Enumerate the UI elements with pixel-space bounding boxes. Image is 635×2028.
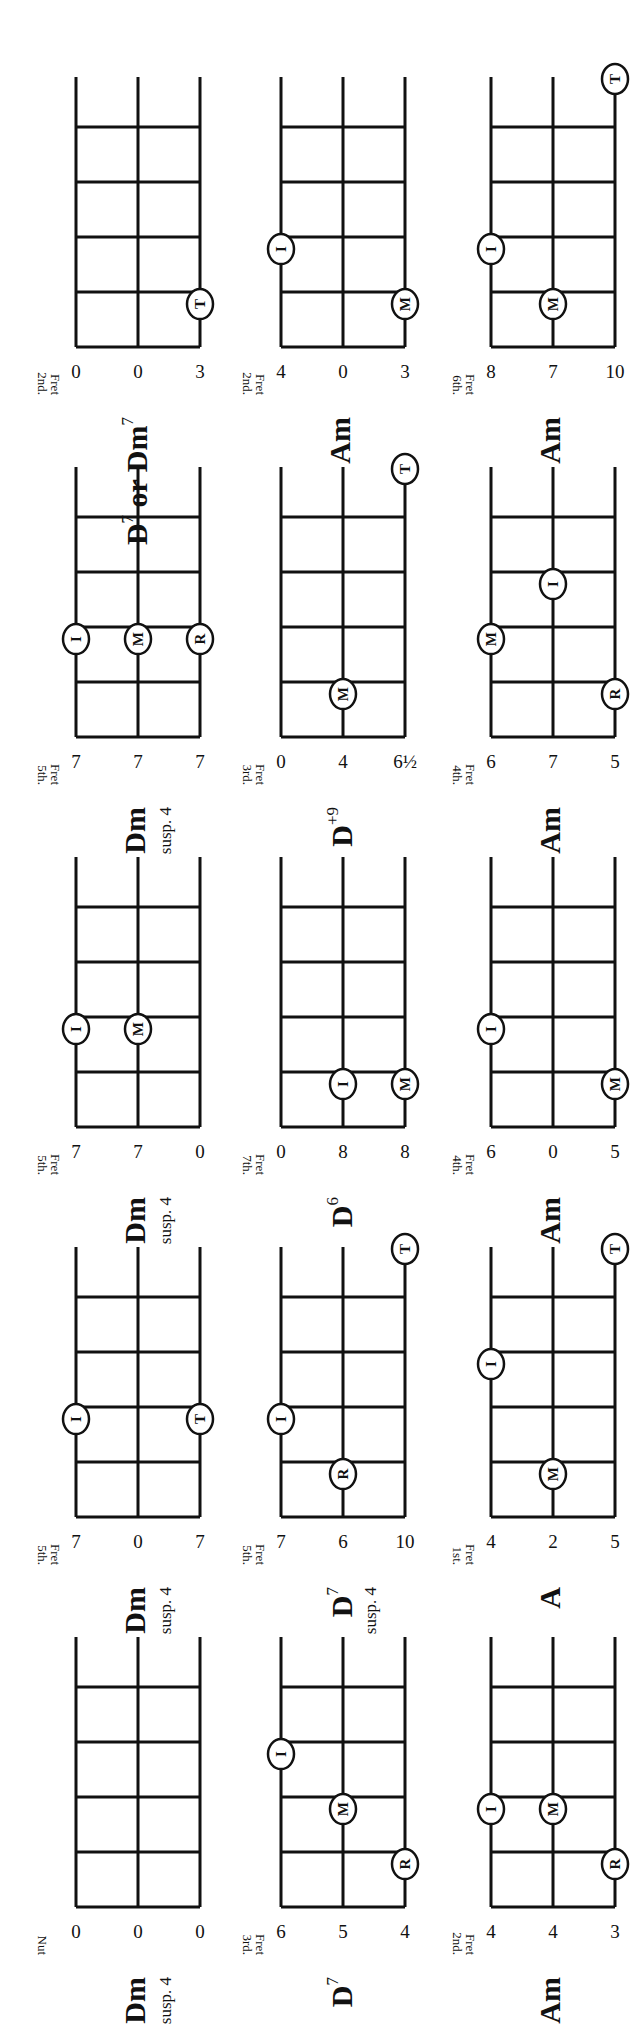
string-fret-number: 2 bbox=[538, 1531, 568, 1553]
chord-qualifier: susp. 4 bbox=[156, 807, 176, 927]
fret-position-label: Fret2nd. bbox=[451, 1911, 477, 1955]
chord-name: Am bbox=[533, 1197, 567, 1337]
svg-text:T: T bbox=[192, 1414, 208, 1424]
string-fret-number: 0 bbox=[266, 751, 296, 773]
finger-marker-m: M bbox=[540, 1794, 566, 1824]
chord-alt-extension: 7 bbox=[118, 417, 137, 426]
chord-root: A bbox=[533, 1587, 566, 1609]
string-fret-number: 0 bbox=[61, 1921, 91, 1943]
fret-ordinal: 2nd. bbox=[36, 351, 49, 395]
svg-text:M: M bbox=[607, 1077, 623, 1091]
chord-diagram: TFret2nd.003D7 or Dm7 bbox=[40, 0, 245, 387]
finger-marker-i: I bbox=[268, 1739, 294, 1769]
chord-root: Dm bbox=[118, 807, 151, 854]
fret-ordinal: 3rd. bbox=[241, 1911, 254, 1955]
chord-root: Am bbox=[533, 1977, 566, 2024]
string-fret-number: 7 bbox=[61, 751, 91, 773]
finger-marker-r: R bbox=[392, 1849, 418, 1879]
svg-text:I: I bbox=[483, 1026, 499, 1032]
string-fret-number: 3 bbox=[390, 361, 420, 383]
svg-text:I: I bbox=[273, 246, 289, 252]
svg-text:M: M bbox=[397, 1077, 413, 1091]
string-fret-number: 4 bbox=[476, 1531, 506, 1553]
fret-position-label: Nut bbox=[36, 1911, 49, 1955]
finger-marker-t: T bbox=[187, 289, 213, 319]
fret-ordinal: 5th. bbox=[241, 1521, 254, 1565]
fretboard-grid: MI bbox=[245, 0, 450, 387]
svg-text:I: I bbox=[68, 636, 84, 642]
finger-marker-i: I bbox=[540, 569, 566, 599]
string-fret-number: 6½ bbox=[390, 751, 420, 773]
svg-text:I: I bbox=[68, 1026, 84, 1032]
svg-text:M: M bbox=[483, 632, 499, 646]
chord-root: Dm bbox=[118, 1587, 151, 1634]
fret-position-label: Fret2nd. bbox=[36, 351, 62, 395]
chord-name: A bbox=[533, 1587, 567, 1727]
fret-position-label: Fret4th. bbox=[451, 1131, 477, 1175]
string-fret-number: 4 bbox=[266, 361, 296, 383]
chord-name: D7 bbox=[323, 1587, 359, 1727]
chord-root: D bbox=[120, 523, 153, 545]
chord-root: D bbox=[325, 1986, 358, 2008]
svg-text:M: M bbox=[545, 1802, 561, 1816]
fret-position-label: Fret5th. bbox=[241, 1521, 267, 1565]
finger-marker-t: T bbox=[392, 454, 418, 484]
fret-position-label: Fret1st. bbox=[451, 1521, 477, 1565]
svg-text:T: T bbox=[607, 1244, 623, 1254]
finger-marker-r: R bbox=[187, 624, 213, 654]
string-fret-number: 10 bbox=[390, 1531, 420, 1553]
string-fret-number: 5 bbox=[328, 1921, 358, 1943]
string-fret-number: 0 bbox=[266, 1141, 296, 1163]
string-fret-number: 5 bbox=[600, 1141, 630, 1163]
chord-name: Am bbox=[533, 417, 567, 557]
string-fret-number: 0 bbox=[328, 361, 358, 383]
chord-name: Am bbox=[323, 417, 357, 557]
string-fret-number: 7 bbox=[185, 751, 215, 773]
fret-ordinal: 2nd. bbox=[241, 351, 254, 395]
svg-text:R: R bbox=[192, 634, 208, 645]
finger-marker-m: M bbox=[478, 624, 504, 654]
chord-name: Am bbox=[533, 807, 567, 947]
finger-marker-m: M bbox=[392, 289, 418, 319]
finger-marker-i: I bbox=[478, 1014, 504, 1044]
svg-text:I: I bbox=[483, 1361, 499, 1367]
chord-name: Am bbox=[533, 1977, 567, 2028]
chord-name: D7 or Dm7 bbox=[118, 417, 154, 587]
string-fret-number: 7 bbox=[538, 361, 568, 383]
svg-text:R: R bbox=[607, 1859, 623, 1870]
string-fret-number: 4 bbox=[390, 1921, 420, 1943]
string-fret-number: 0 bbox=[538, 1141, 568, 1163]
finger-marker-m: M bbox=[602, 1069, 628, 1099]
finger-marker-r: R bbox=[602, 679, 628, 709]
chord-root: Am bbox=[323, 417, 356, 464]
finger-marker-i: I bbox=[478, 234, 504, 264]
string-fret-number: 6 bbox=[328, 1531, 358, 1553]
svg-text:R: R bbox=[397, 1859, 413, 1870]
string-fret-number: 0 bbox=[61, 361, 91, 383]
string-fret-number: 7 bbox=[61, 1141, 91, 1163]
svg-text:M: M bbox=[545, 1467, 561, 1481]
finger-marker-i: I bbox=[268, 234, 294, 264]
finger-marker-m: M bbox=[540, 1459, 566, 1489]
string-fret-number: 8 bbox=[328, 1141, 358, 1163]
svg-text:I: I bbox=[273, 1416, 289, 1422]
string-fret-number: 0 bbox=[185, 1921, 215, 1943]
svg-text:I: I bbox=[335, 1081, 351, 1087]
finger-marker-m: M bbox=[125, 1014, 151, 1044]
string-fret-number: 6 bbox=[266, 1921, 296, 1943]
chord-root: Am bbox=[533, 807, 566, 854]
chord-qualifier: susp. 4 bbox=[156, 1977, 176, 2028]
string-fret-number: 4 bbox=[328, 751, 358, 773]
finger-marker-t: T bbox=[602, 1234, 628, 1264]
string-fret-number: 7 bbox=[61, 1531, 91, 1553]
string-fret-number: 3 bbox=[185, 361, 215, 383]
string-fret-number: 10 bbox=[600, 361, 630, 383]
chord-qualifier: susp. 4 bbox=[361, 1587, 381, 1707]
fret-ordinal: 5th. bbox=[36, 1131, 49, 1175]
finger-marker-i: I bbox=[63, 1404, 89, 1434]
svg-text:M: M bbox=[335, 1802, 351, 1816]
chord-extension: +9 bbox=[323, 807, 342, 825]
chord-root: Am bbox=[533, 1197, 566, 1244]
fret-ordinal: 5th. bbox=[36, 1521, 49, 1565]
svg-text:M: M bbox=[335, 687, 351, 701]
